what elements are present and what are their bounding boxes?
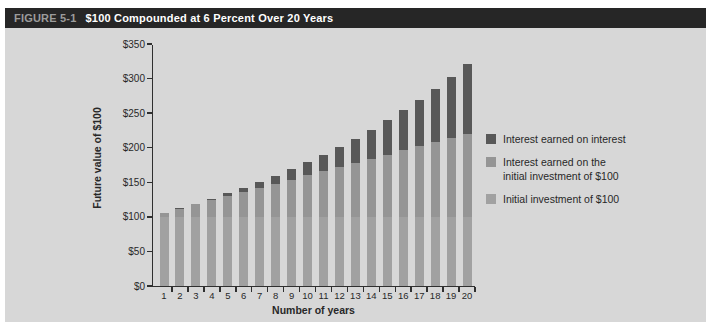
y-axis-tick-label: $150 bbox=[109, 177, 145, 188]
bar-segment bbox=[191, 217, 200, 286]
legend-swatch bbox=[486, 157, 496, 167]
x-axis-tick-label: 12 bbox=[331, 290, 347, 301]
y-axis-tick-label: $350 bbox=[109, 39, 145, 50]
stacked-bar-year-19 bbox=[447, 77, 456, 286]
bar-segment bbox=[351, 217, 360, 286]
bar-segment bbox=[399, 217, 408, 286]
x-axis-tick-label: 1 bbox=[156, 290, 172, 301]
legend-item: Initial investment of $100 bbox=[486, 193, 626, 206]
x-axis-tick-label: 17 bbox=[411, 290, 427, 301]
y-axis-tick bbox=[147, 112, 152, 114]
bar-segment bbox=[335, 147, 344, 167]
bar-segment bbox=[399, 110, 408, 150]
legend-item: Interest earned on theinitial investment… bbox=[486, 156, 626, 183]
stacked-bar-year-16 bbox=[399, 110, 408, 286]
bar-segment bbox=[367, 217, 376, 286]
y-axis-tick bbox=[147, 216, 152, 218]
bar-segment bbox=[367, 159, 376, 217]
x-axis-title: Number of years bbox=[152, 304, 475, 316]
bar-segment bbox=[335, 167, 344, 217]
bar-segment bbox=[383, 120, 392, 154]
figure-box: FIGURE 5-1 $100 Compounded at 6 Percent … bbox=[5, 8, 706, 322]
stacked-bar-year-17 bbox=[415, 100, 424, 286]
bar-segment bbox=[207, 200, 216, 217]
stacked-bar-year-1 bbox=[160, 213, 169, 286]
bar-segment bbox=[271, 176, 280, 184]
bar-segment bbox=[287, 169, 296, 179]
y-axis-tick bbox=[147, 43, 152, 45]
y-axis-tick-label: $200 bbox=[109, 142, 145, 153]
x-axis-tick-label: 16 bbox=[395, 290, 411, 301]
bar-segment bbox=[415, 100, 424, 147]
stacked-bar-year-10 bbox=[303, 162, 312, 286]
bar-segment bbox=[431, 217, 440, 286]
legend-label: Interest earned on theinitial investment… bbox=[503, 156, 619, 183]
bar-segment bbox=[319, 155, 328, 171]
x-axis-tick-label: 5 bbox=[220, 290, 236, 301]
bar-segment bbox=[463, 64, 472, 134]
x-axis-tick-label: 9 bbox=[284, 290, 300, 301]
bar-segment bbox=[463, 134, 472, 217]
y-axis-tick-label: $50 bbox=[109, 246, 145, 257]
stacked-bar-year-7 bbox=[255, 182, 264, 286]
stacked-bar-year-12 bbox=[335, 147, 344, 286]
x-axis-tick-label: 15 bbox=[379, 290, 395, 301]
x-axis-tick-label: 3 bbox=[188, 290, 204, 301]
stacked-bar-year-18 bbox=[431, 89, 440, 286]
stacked-bar-year-5 bbox=[223, 193, 232, 286]
x-axis-tick-label: 7 bbox=[252, 290, 268, 301]
y-axis-tick-label: $300 bbox=[109, 73, 145, 84]
bar-segment bbox=[303, 175, 312, 216]
bar-segment bbox=[447, 217, 456, 286]
legend-label: Initial investment of $100 bbox=[503, 193, 619, 206]
bar-segment bbox=[255, 188, 264, 217]
bar-segment bbox=[431, 89, 440, 143]
stacked-bar-year-8 bbox=[271, 176, 280, 286]
y-axis-tick bbox=[147, 182, 152, 184]
bar-segment bbox=[175, 217, 184, 286]
figure-header: FIGURE 5-1 $100 Compounded at 6 Percent … bbox=[5, 8, 706, 28]
bar-segment bbox=[415, 217, 424, 286]
bar-segment bbox=[207, 217, 216, 286]
x-axis-tick-label: 18 bbox=[427, 290, 443, 301]
bar-segment bbox=[399, 150, 408, 216]
x-axis-tick-label: 14 bbox=[363, 290, 379, 301]
bar-segment bbox=[319, 171, 328, 217]
legend-swatch bbox=[486, 134, 496, 144]
stacked-bar-year-15 bbox=[383, 120, 392, 286]
bar-segment bbox=[271, 184, 280, 217]
bar-segment bbox=[175, 209, 184, 217]
y-axis-tick-label: $100 bbox=[109, 211, 145, 222]
bar-segment bbox=[223, 196, 232, 217]
plot-area: $0$50$100$150$200$250$300$35012345678910… bbox=[152, 45, 475, 287]
x-axis-tick-label: 6 bbox=[236, 290, 252, 301]
stacked-bar-year-6 bbox=[239, 188, 248, 286]
bar-segment bbox=[447, 138, 456, 217]
legend-swatch bbox=[486, 194, 496, 204]
figure-title: $100 Compounded at 6 Percent Over 20 Yea… bbox=[86, 12, 334, 24]
bar-segment bbox=[415, 146, 424, 217]
legend-item: Interest earned on interest bbox=[486, 133, 626, 146]
bar-segment bbox=[255, 217, 264, 286]
bar-segment bbox=[351, 163, 360, 217]
bar-segment bbox=[239, 217, 248, 286]
bar-segment bbox=[431, 142, 440, 217]
bar-segment bbox=[223, 217, 232, 286]
bar-segment bbox=[239, 192, 248, 217]
bar-segment bbox=[383, 155, 392, 217]
x-axis-tick-label: 13 bbox=[347, 290, 363, 301]
stacked-bar-year-3 bbox=[191, 204, 200, 286]
bar-segment bbox=[319, 217, 328, 286]
stacked-bar-year-20 bbox=[463, 64, 472, 286]
x-axis-tick-label: 2 bbox=[172, 290, 188, 301]
legend: Interest earned on interestInterest earn… bbox=[486, 133, 626, 217]
bar-segment bbox=[463, 217, 472, 286]
bar-segment bbox=[367, 130, 376, 159]
bar-segment bbox=[383, 217, 392, 286]
bar-segment bbox=[287, 180, 296, 217]
bar-segment bbox=[335, 217, 344, 286]
stacked-bar-year-9 bbox=[287, 169, 296, 286]
bar-segment bbox=[351, 139, 360, 163]
bar-segment bbox=[287, 217, 296, 286]
bar-segment bbox=[303, 217, 312, 286]
